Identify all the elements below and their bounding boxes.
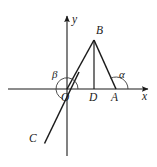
x-axis-label: x xyxy=(142,91,147,103)
point-label-D: D xyxy=(89,92,97,104)
point-label-A: A xyxy=(111,92,118,104)
point-label-C: C xyxy=(29,133,37,145)
geometry-figure: x y O D A B C β α xyxy=(0,0,157,167)
angle-label-alpha: α xyxy=(119,69,125,80)
angle-label-beta: β xyxy=(52,69,57,80)
line-OC xyxy=(45,72,80,144)
segment-OB xyxy=(67,40,94,89)
point-label-B: B xyxy=(96,25,103,37)
segment-BA xyxy=(94,40,116,89)
y-axis-label: y xyxy=(72,14,77,26)
point-label-O: O xyxy=(61,92,69,104)
figure-canvas xyxy=(0,0,157,167)
